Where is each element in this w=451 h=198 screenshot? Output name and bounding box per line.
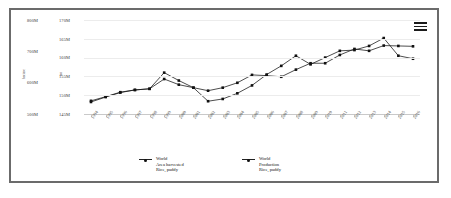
data-point-marker[interactable] bbox=[163, 71, 166, 74]
data-point-marker[interactable] bbox=[324, 62, 327, 65]
legend-label-line-2: Rice, paddy bbox=[259, 167, 281, 173]
data-point-marker[interactable] bbox=[90, 101, 93, 104]
y-axis-secondary-tick-label: 170M bbox=[59, 18, 85, 23]
y-axis-secondary-tick-label: 160M bbox=[59, 55, 85, 60]
data-point-marker[interactable] bbox=[412, 45, 415, 48]
gridline bbox=[84, 39, 420, 40]
menu-bar-1 bbox=[414, 22, 427, 24]
y-axis-primary-tick-label: 600M bbox=[27, 80, 53, 85]
chart-legend: WorldArea harvestedRice, paddyWorldProdu… bbox=[139, 156, 339, 184]
data-point-marker[interactable] bbox=[134, 89, 137, 92]
menu-bar-3 bbox=[414, 29, 427, 31]
y-axis-secondary-tick-label: 150M bbox=[59, 93, 85, 98]
data-point-marker[interactable] bbox=[339, 54, 342, 57]
y-axis-primary-tick-label: 800M bbox=[27, 18, 53, 23]
gridline bbox=[84, 20, 420, 21]
data-point-marker[interactable] bbox=[251, 84, 254, 87]
data-point-marker[interactable] bbox=[295, 68, 298, 71]
hamburger-menu-icon[interactable] bbox=[414, 22, 427, 32]
gridline bbox=[84, 76, 420, 77]
data-point-marker[interactable] bbox=[368, 50, 371, 53]
y-axis-primary-tick-label: 700M bbox=[27, 49, 53, 54]
data-point-marker[interactable] bbox=[397, 45, 400, 48]
y-axis-secondary-tick-label: 145M bbox=[59, 112, 85, 117]
legend-label: WorldProductionRice, paddy bbox=[259, 156, 281, 173]
data-point-marker[interactable] bbox=[339, 50, 342, 53]
data-point-marker[interactable] bbox=[221, 86, 224, 89]
data-point-marker[interactable] bbox=[353, 49, 356, 52]
legend-label: WorldArea harvestedRice, paddy bbox=[156, 156, 184, 173]
series-lines bbox=[84, 20, 420, 114]
data-point-marker[interactable] bbox=[178, 83, 181, 86]
legend-marker-icon bbox=[139, 159, 152, 160]
y-axis-secondary-tick-label: 165M bbox=[59, 37, 85, 42]
legend-label-line-2: Rice, paddy bbox=[156, 167, 184, 173]
data-point-marker[interactable] bbox=[207, 100, 210, 103]
data-point-marker[interactable] bbox=[178, 79, 181, 82]
y-axis-secondary-tick-label: 155M bbox=[59, 74, 85, 79]
y-axis-primary-title: hectare bbox=[22, 59, 26, 89]
data-point-marker[interactable] bbox=[221, 98, 224, 101]
gridline bbox=[84, 58, 420, 59]
chart-frame: hectare ton 800M700M600M500M 170M165M160… bbox=[9, 8, 439, 183]
plot-area bbox=[84, 20, 420, 114]
data-point-marker[interactable] bbox=[382, 44, 385, 47]
data-point-marker[interactable] bbox=[119, 91, 122, 94]
y-axis-primary-tick-label: 500M bbox=[27, 112, 53, 117]
series-line-0 bbox=[91, 46, 413, 101]
gridline bbox=[84, 95, 420, 96]
data-point-marker[interactable] bbox=[368, 45, 371, 48]
legend-marker-icon bbox=[242, 159, 255, 160]
data-point-marker[interactable] bbox=[207, 89, 210, 92]
data-point-marker[interactable] bbox=[236, 81, 239, 84]
data-point-marker[interactable] bbox=[280, 65, 283, 68]
data-point-marker[interactable] bbox=[192, 86, 195, 89]
data-point-marker[interactable] bbox=[163, 78, 166, 81]
data-point-marker[interactable] bbox=[309, 63, 312, 66]
menu-bar-2 bbox=[414, 26, 427, 28]
series-line-1 bbox=[91, 38, 413, 102]
data-point-marker[interactable] bbox=[148, 88, 151, 91]
